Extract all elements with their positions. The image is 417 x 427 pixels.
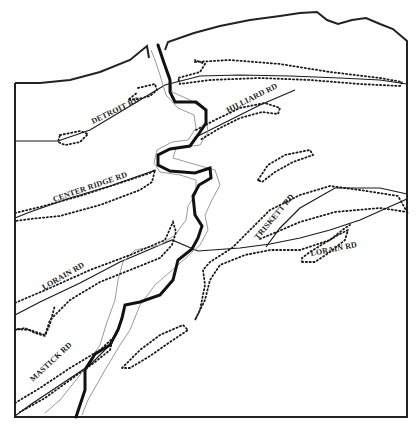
label-hilliard-rd: HILLIARD RD [225,81,279,115]
map-canvas: DETROIT RD HILLIARD RD CENTER RIDGE RD T… [0,0,417,427]
label-mastick-rd: MASTICK RD [28,340,73,383]
road-lorain-west [15,240,198,315]
boundary-top-left-segment [15,46,149,83]
dotted-deposits [15,60,407,412]
dotted-detroit-west [58,131,88,145]
dotted-blob-center [258,150,313,182]
dotted-southwest-loop [15,305,55,336]
map-figure: DETROIT RD HILLIARD RD CENTER RIDGE RD T… [0,0,417,427]
label-triskett-rd: TRISKETT RD [253,192,296,241]
label-lorain-rd-east: LORAIN RD [310,240,358,258]
dotted-south-blob [122,325,188,368]
road-labels: DETROIT RD HILLIARD RD CENTER RIDGE RD T… [28,81,358,383]
dotted-lorain-west [15,222,176,335]
map-boundary [15,12,407,417]
label-detroit-rd: DETROIT RD [90,95,141,126]
boundary-top-left [15,12,407,417]
road-detroit [15,75,407,141]
dotted-triskett [195,186,407,320]
dotted-detroit-east [178,60,402,86]
label-lorain-rd-west: LORAIN RD [41,260,87,291]
